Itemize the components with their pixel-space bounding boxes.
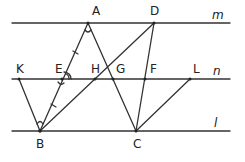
label-D: D [150,4,159,18]
label-E: E [55,62,63,76]
angle-mark-E-1 [66,74,69,79]
point-dots [18,22,192,133]
label-G: G [116,62,125,76]
label-K: K [16,62,25,76]
label-A: A [92,4,101,18]
label-H: H [91,62,100,76]
segment-DB [40,23,154,131]
label-line-m: m [212,8,224,22]
segment-LC [136,79,190,131]
segment-DC [136,23,154,131]
label-line-l: l [214,116,218,130]
angle-mark-B [37,122,43,125]
geometry-diagram: A D K E H G F L B C m n l [0,0,245,162]
label-B: B [36,137,44,151]
label-line-n: n [213,64,221,78]
label-F: F [150,62,157,76]
label-L: L [193,62,200,76]
angle-mark-A [85,30,91,32]
segment-AC [88,23,136,131]
label-C: C [133,137,141,151]
segment-AB [40,23,88,131]
